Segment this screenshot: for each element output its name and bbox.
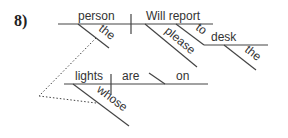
word-are: are [122, 69, 140, 83]
word-whose: whose [93, 82, 130, 115]
sentence-diagram: person Will report desk the please to th… [0, 0, 288, 138]
connector-dotted-lower [39, 96, 96, 103]
word-on: on [176, 69, 189, 83]
word-desk: desk [211, 30, 237, 44]
word-person: person [78, 9, 115, 23]
connector-dotted-upper [39, 38, 96, 96]
word-lights: lights [75, 69, 103, 83]
word-will-report: Will report [146, 9, 201, 23]
word-please: please [162, 24, 198, 58]
complement-divider [149, 73, 165, 84]
